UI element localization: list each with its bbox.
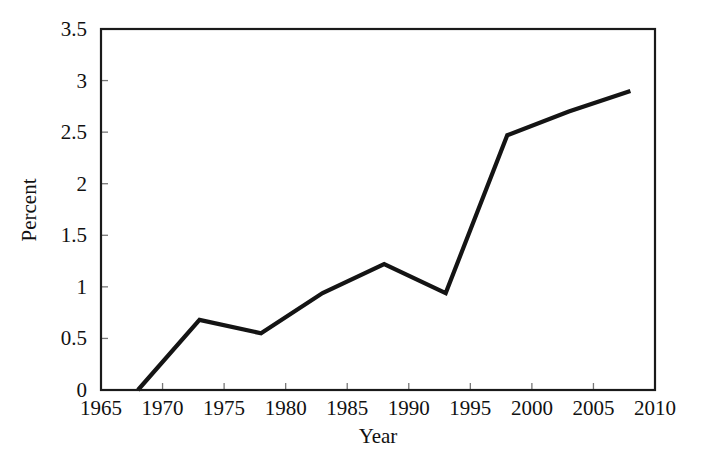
x-tick-label: 1995 bbox=[449, 396, 491, 420]
x-tick-label: 1990 bbox=[388, 396, 430, 420]
y-tick-label: 1 bbox=[77, 275, 88, 299]
x-tick-label: 1980 bbox=[265, 396, 307, 420]
y-tick-label: 3.5 bbox=[61, 17, 87, 41]
x-tick-label: 1970 bbox=[142, 396, 184, 420]
y-tick-label: 1.5 bbox=[61, 223, 87, 247]
y-tick-label: 2.5 bbox=[61, 120, 87, 144]
x-tick-label: 2010 bbox=[634, 396, 676, 420]
x-axis-title: Year bbox=[359, 424, 398, 448]
x-tick-label: 1975 bbox=[203, 396, 245, 420]
y-tick-label: 0.5 bbox=[61, 326, 87, 350]
x-tick-label: 2005 bbox=[572, 396, 614, 420]
line-chart: 00.511.522.533.5 19651970197519801985199… bbox=[0, 0, 701, 460]
chart-canvas: 00.511.522.533.5 19651970197519801985199… bbox=[0, 0, 701, 460]
x-tick-label: 1965 bbox=[80, 396, 122, 420]
y-tick-label: 3 bbox=[77, 69, 88, 93]
x-tick-label: 2000 bbox=[511, 396, 553, 420]
y-axis-title: Percent bbox=[17, 178, 41, 241]
y-tick-label: 2 bbox=[77, 172, 88, 196]
x-tick-label: 1985 bbox=[326, 396, 368, 420]
